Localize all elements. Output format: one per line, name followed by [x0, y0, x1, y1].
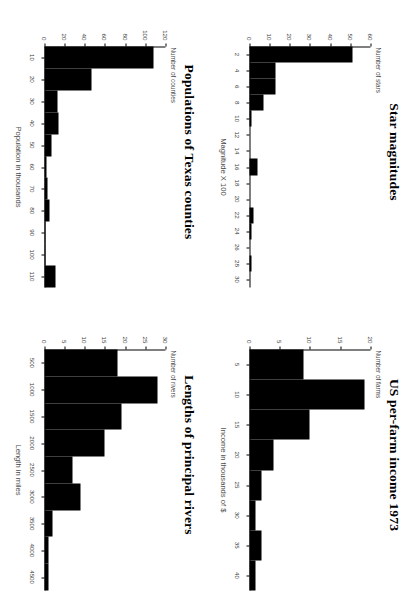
y-tick — [64, 346, 65, 349]
y-tick — [269, 43, 270, 46]
plot-area: Number of stars Magnitude X 100 24681012… — [249, 46, 370, 287]
x-tick-label: 10 — [233, 391, 240, 398]
bar — [44, 349, 117, 376]
bar — [249, 409, 310, 439]
x-tick-label: 4500 — [28, 570, 35, 584]
x-tick — [41, 443, 44, 444]
chart-panel-us-per-farm-income: US per-farm income 1973 Number of farms … — [205, 303, 410, 606]
chart-panel-star-magnitudes: Star magnitudes Number of stars Magnitud… — [205, 0, 410, 303]
x-tick — [246, 167, 249, 168]
x-tick-label: 22 — [233, 211, 240, 218]
x-tick-label: 2 — [233, 52, 240, 55]
x-tick-label: 35 — [233, 541, 240, 548]
x-tick — [41, 523, 44, 524]
x-tick — [246, 134, 249, 135]
y-tick-label: 20 — [286, 33, 293, 40]
y-tick — [64, 43, 65, 46]
x-tick — [41, 167, 44, 168]
bar — [249, 470, 261, 500]
x-tick — [41, 101, 44, 102]
x-tick-label: 2500 — [28, 463, 35, 477]
x-tick-label: 100 — [28, 249, 35, 259]
x-tick-label: 1000 — [28, 382, 35, 396]
chart-title: Lengths of principal rivers — [180, 303, 196, 606]
y-tick — [310, 346, 311, 349]
x-tick-label: 20 — [233, 195, 240, 202]
chart-title: US per-farm income 1973 — [385, 303, 401, 606]
x-tick-label: 15 — [233, 421, 240, 428]
y-tick — [105, 43, 106, 46]
bar — [44, 483, 80, 510]
y-axis-label: Number of farms — [374, 350, 381, 398]
y-tick — [105, 346, 106, 349]
x-tick-label: 40 — [233, 571, 240, 578]
x-tick — [41, 389, 44, 390]
x-tick — [246, 199, 249, 200]
y-tick-label: 10 — [266, 33, 273, 40]
x-tick-label: 24 — [233, 227, 240, 234]
x-tick-label: 26 — [233, 243, 240, 250]
x-tick-label: 30 — [233, 511, 240, 518]
x-tick — [41, 416, 44, 417]
x-tick — [41, 57, 44, 58]
histogram-grid: Populations of Texas counties Number of … — [0, 0, 410, 606]
y-tick-label: 15 — [101, 336, 108, 343]
y-tick — [84, 346, 85, 349]
y-tick — [279, 346, 280, 349]
y-tick-label: 0 — [246, 340, 253, 343]
x-tick-label: 4000 — [28, 543, 35, 557]
y-tick-label: 20 — [367, 336, 374, 343]
panel-slot-bottom-right: US per-farm income 1973 Number of farms … — [205, 303, 410, 606]
chart-title: Populations of Texas counties — [180, 0, 196, 303]
y-tick — [289, 43, 290, 46]
x-axis-label: Length in miles — [13, 349, 22, 590]
x-tick — [41, 145, 44, 146]
x-tick-label: 50 — [28, 141, 35, 148]
y-tick-label: 15 — [336, 336, 343, 343]
x-tick-label: 16 — [233, 163, 240, 170]
x-tick — [246, 183, 249, 184]
x-tick — [41, 188, 44, 189]
chart-panel-texas-counties: Populations of Texas counties Number of … — [0, 0, 205, 303]
x-tick-label: 40 — [28, 119, 35, 126]
x-tick — [41, 470, 44, 471]
y-tick — [84, 43, 85, 46]
x-tick-label: 8 — [233, 100, 240, 103]
x-tick-label: 4 — [233, 68, 240, 71]
x-tick-label: 20 — [28, 75, 35, 82]
x-tick — [41, 496, 44, 497]
y-tick-label: 0 — [41, 340, 48, 343]
y-tick-label: 20 — [121, 336, 128, 343]
bar-series — [249, 349, 370, 590]
x-tick-label: 30 — [28, 97, 35, 104]
x-tick — [246, 424, 249, 425]
y-tick — [350, 43, 351, 46]
y-tick — [310, 43, 311, 46]
x-tick-label: 1500 — [28, 409, 35, 423]
plot-area: Number of farms Income in thousands of $… — [249, 349, 370, 590]
x-tick-label: 12 — [233, 131, 240, 138]
x-axis-label: Magnitude X 100 — [218, 46, 227, 287]
plot-area: Number of counties Population in thousan… — [44, 46, 165, 287]
y-tick — [249, 346, 250, 349]
y-tick-label: 80 — [121, 33, 128, 40]
y-tick-label: 25 — [141, 336, 148, 343]
bar — [44, 376, 157, 403]
x-tick-label: 70 — [28, 185, 35, 192]
bar — [249, 379, 364, 409]
y-tick-label: 60 — [367, 33, 374, 40]
y-tick-label: 0 — [41, 37, 48, 40]
x-tick-label: 25 — [233, 481, 240, 488]
y-tick — [44, 43, 45, 46]
y-axis-label: Number of rivers — [169, 350, 176, 397]
y-tick-label: 0 — [246, 37, 253, 40]
bar — [44, 46, 153, 68]
x-tick — [246, 54, 249, 55]
x-tick — [41, 577, 44, 578]
x-tick — [246, 70, 249, 71]
bar — [249, 349, 303, 379]
y-tick — [165, 346, 166, 349]
x-tick — [41, 232, 44, 233]
x-tick-label: 90 — [28, 229, 35, 236]
x-tick-label: 10 — [233, 115, 240, 122]
